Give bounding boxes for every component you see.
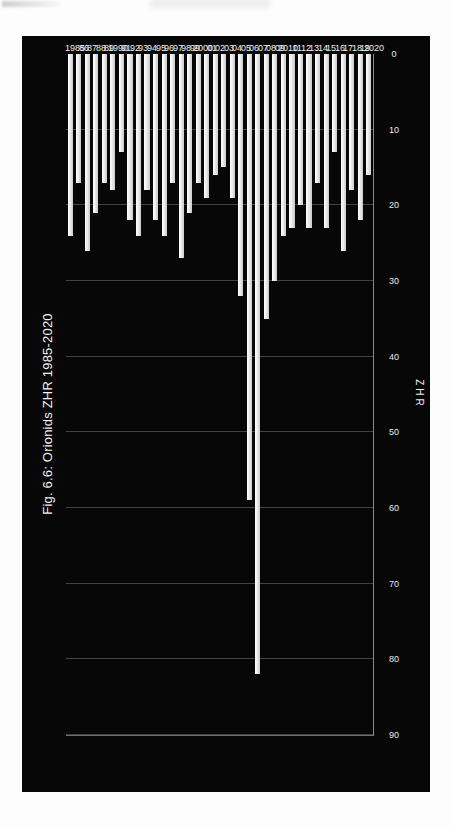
bar-row (153, 54, 158, 735)
bar-97 (170, 54, 175, 183)
bar-09 (272, 54, 277, 281)
bar-row (127, 54, 132, 735)
bar-1990 (110, 54, 115, 190)
bar-89 (102, 54, 107, 183)
bar-row (272, 54, 277, 735)
zhr-tick-label: 50 (389, 427, 399, 437)
bar-row (102, 54, 107, 735)
year-tick-label: 2020 (364, 43, 384, 53)
bar-16 (332, 54, 337, 152)
bar-06 (247, 54, 252, 500)
bar-88 (93, 54, 98, 213)
bar-01 (204, 54, 209, 198)
plot-area: 0102030405060708090ZHR (66, 54, 374, 736)
bar-15 (324, 54, 329, 228)
zhr-tick-label: 40 (389, 352, 399, 362)
bar-12 (298, 54, 303, 205)
bar-row (264, 54, 269, 735)
scan-artifact-top (150, 0, 270, 12)
bar-19 (358, 54, 363, 220)
bar-02 (213, 54, 218, 175)
bar-row (358, 54, 363, 735)
bar-row (179, 54, 184, 735)
zhr-tick-label: 60 (389, 503, 399, 513)
zhr-tick-label: 10 (389, 125, 399, 135)
bar-row (255, 54, 260, 735)
bar-98 (179, 54, 184, 258)
chart-plate: Fig. 6.6: Orionids ZHR 1985-2020 0102030… (22, 36, 430, 792)
bar-row (170, 54, 175, 735)
bar-86 (76, 54, 81, 183)
bar-row (247, 54, 252, 735)
bar-row (187, 54, 192, 735)
bar-row (110, 54, 115, 735)
bar-row (238, 54, 243, 735)
zhr-axis-label: ZHR (414, 380, 425, 410)
bar-row (196, 54, 201, 735)
bar-row (366, 54, 371, 735)
bar-row (213, 54, 218, 735)
bar-row (281, 54, 286, 735)
bar-row (144, 54, 149, 735)
page-background: Fig. 6.6: Orionids ZHR 1985-2020 0102030… (0, 0, 452, 826)
zhr-tick-label: 20 (389, 200, 399, 210)
bar-14 (315, 54, 320, 183)
bar-99 (187, 54, 192, 213)
plot-inner (66, 54, 373, 735)
bar-92 (127, 54, 132, 220)
zhr-tick-label: 30 (389, 276, 399, 286)
bar-87 (85, 54, 90, 251)
bar-1985 (68, 54, 73, 236)
bar-95 (153, 54, 158, 220)
bar-17 (341, 54, 346, 251)
bar-row (221, 54, 226, 735)
bar-2010 (281, 54, 286, 236)
bar-11 (289, 54, 294, 228)
chart-title: Fig. 6.6: Orionids ZHR 1985-2020 (40, 36, 55, 792)
bar-row (315, 54, 320, 735)
bar-row (349, 54, 354, 735)
bar-18 (349, 54, 354, 190)
bar-row (93, 54, 98, 735)
bar-row (85, 54, 90, 735)
bar-row (289, 54, 294, 735)
zhr-tick-label: 0 (391, 49, 396, 59)
bar-07 (255, 54, 260, 674)
bar-05 (238, 54, 243, 296)
bar-row (162, 54, 167, 735)
bar-row (204, 54, 209, 735)
zhr-tick-label: 70 (389, 579, 399, 589)
bar-2000 (196, 54, 201, 183)
bar-row (324, 54, 329, 735)
bar-94 (144, 54, 149, 190)
bar-row (332, 54, 337, 735)
bar-03 (221, 54, 226, 168)
zhr-tick-label: 80 (389, 654, 399, 664)
bar-row (306, 54, 311, 735)
bar-row (136, 54, 141, 735)
bar-row (341, 54, 346, 735)
bar-08 (264, 54, 269, 319)
zhr-tick-label: 90 (389, 730, 399, 740)
bar-row (76, 54, 81, 735)
bar-row (68, 54, 73, 735)
scan-artifact-top-left (2, 1, 60, 7)
bar-96 (162, 54, 167, 236)
bar-91 (119, 54, 124, 152)
bar-93 (136, 54, 141, 236)
bar-13 (306, 54, 311, 228)
bar-row (298, 54, 303, 735)
rotated-chart-container: Fig. 6.6: Orionids ZHR 1985-2020 0102030… (22, 36, 430, 792)
bar-04 (230, 54, 235, 198)
bar-row (119, 54, 124, 735)
bar-row (230, 54, 235, 735)
bar-2020 (366, 54, 371, 175)
